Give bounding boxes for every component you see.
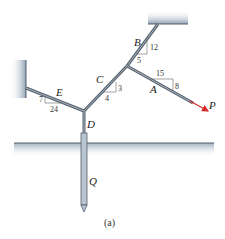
force-arrow-P <box>190 101 208 111</box>
label-E: E <box>55 86 63 98</box>
slope-A-run: 15 <box>156 69 164 78</box>
slope-A-rise: 8 <box>175 82 179 91</box>
slope-C-run: 4 <box>105 94 109 103</box>
label-P: P <box>208 99 216 111</box>
slope-E-rise: 7 <box>39 95 43 104</box>
pile-Q <box>81 133 87 212</box>
label-D: D <box>86 118 95 130</box>
wall-support <box>10 60 26 98</box>
figure-caption: (a) <box>104 217 115 229</box>
cable-system-diagram: 12 5 15 8 3 4 7 24 B A C D E P Q (a) <box>0 0 225 239</box>
slope-B-rise: 12 <box>150 43 158 52</box>
ceiling-support <box>148 10 188 24</box>
slope-B-run: 5 <box>137 56 141 65</box>
label-B: B <box>134 36 141 48</box>
slope-C-rise: 3 <box>118 84 122 93</box>
ground <box>14 143 214 157</box>
label-Q: Q <box>89 175 97 187</box>
label-C: C <box>96 73 104 85</box>
slope-E-run: 24 <box>50 105 58 114</box>
label-A: A <box>149 83 157 95</box>
